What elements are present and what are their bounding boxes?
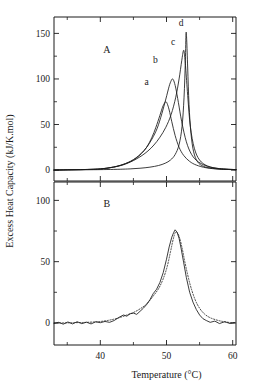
figure-container: 050100150050100405060abcdABTemperature (…	[0, 0, 256, 389]
panel-b-ytick-label: 0	[45, 318, 50, 328]
y-axis-label: Excess Heat Capacity (kJ/K.mol)	[4, 114, 16, 247]
curve-fit	[54, 232, 235, 323]
panel-b-ytick-label: 100	[36, 196, 51, 206]
curve-a	[54, 102, 236, 170]
axis-text: 050100150050100405060abcdABTemperature (…	[4, 18, 238, 381]
curve-b	[54, 79, 236, 170]
curve-label-a: a	[145, 77, 150, 87]
panel-a-ytick-label: 50	[41, 120, 51, 130]
panel-a-ytick-label: 100	[36, 74, 51, 84]
panel-a-ytick-label: 0	[45, 165, 50, 175]
xtick-label: 60	[228, 351, 238, 361]
panel-label-b: B	[104, 198, 111, 209]
curve-label-c: c	[171, 37, 175, 47]
xtick-label: 50	[162, 351, 172, 361]
panel-a	[54, 17, 236, 181]
panel-a-ytick-label: 150	[36, 29, 51, 39]
curve-experimental	[54, 230, 235, 324]
panel-b	[54, 182, 236, 345]
x-axis-label: Temperature (°C)	[131, 369, 201, 381]
curve-label-b: b	[153, 55, 158, 65]
panel-b-ytick-label: 50	[41, 257, 51, 267]
xtick-label: 40	[96, 351, 106, 361]
curve-c	[54, 50, 236, 170]
chart-svg: 050100150050100405060abcdABTemperature (…	[0, 0, 256, 389]
panel-label-a: A	[103, 44, 111, 55]
curve-label-d: d	[179, 18, 184, 28]
